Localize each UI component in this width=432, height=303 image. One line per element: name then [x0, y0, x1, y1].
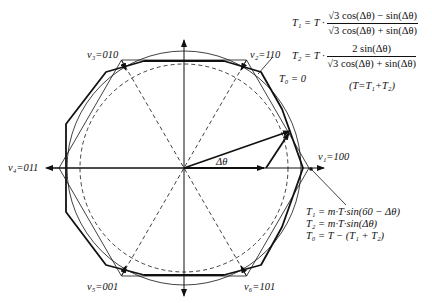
label-v2: v₂=110 — [250, 50, 280, 61]
t0-callout: T₀ = 0 — [279, 74, 306, 85]
reference-vector — [184, 131, 290, 168]
angle-label: Δθ — [216, 157, 227, 168]
bottom-equations: T₁ = m·T·sin(60 − Δθ) T₂ = m·T·sin(Δθ) T… — [306, 206, 400, 242]
label-v3: v₃=010 — [87, 50, 118, 61]
eq-t1: T₁ = m·T·sin(60 − Δθ) — [306, 206, 400, 218]
eq-t2: T₂ = m·T·sin(Δθ) — [306, 218, 400, 230]
sum-note: (T=T₁+T₂) — [349, 80, 395, 92]
t1-equation: T₁ = T · √3 cos(Δθ) − sin(Δθ)√3 cos(Δθ) … — [292, 10, 418, 37]
label-v5: v₅=001 — [87, 282, 118, 293]
label-v6: v₆=101 — [244, 282, 275, 293]
t2-equation: T₂ = T · 2 sin(Δθ)√3 cos(Δθ) + sin(Δθ) — [292, 43, 416, 70]
eq-t0: T₀ = T − (T₁ + T₂) — [306, 230, 400, 242]
label-v4: v₄=011 — [8, 163, 38, 174]
label-v1: v₁=100 — [318, 152, 349, 163]
